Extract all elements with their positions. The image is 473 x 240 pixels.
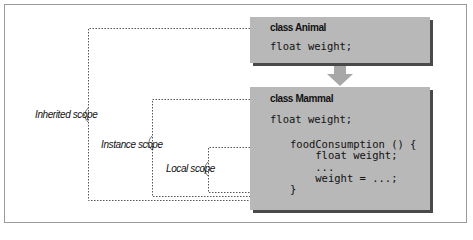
instance-scope-label: Instance scope xyxy=(101,139,163,150)
local-scope-label: Local scope xyxy=(166,163,215,174)
inherited-scope-bracket xyxy=(89,29,251,201)
inherited-scope-label: Inherited scope xyxy=(35,109,97,120)
instance-scope-bracket xyxy=(153,100,251,197)
